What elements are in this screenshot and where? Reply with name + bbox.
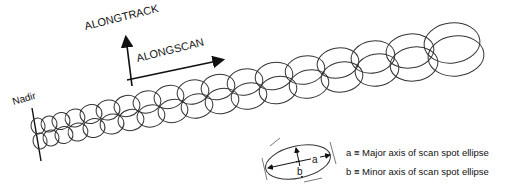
- legend-minor-axis: b ≡ Minor axis of scan spot ellipse: [346, 166, 489, 177]
- tangent-left-top: [270, 138, 280, 146]
- axis-label-b: b: [297, 166, 303, 177]
- legend-major-axis: a ≡ Major axis of scan spot ellipse: [346, 147, 489, 158]
- tangent-bottom: [304, 178, 322, 182]
- scan-spot-diagram: a b: [0, 0, 523, 191]
- major-axis-arrow-back: [268, 161, 300, 168]
- nadir-line: [32, 108, 41, 161]
- minor-axis-arrow-up: [296, 148, 299, 162]
- scan-spot-chain: [29, 20, 485, 150]
- legend-ellipse: a b: [262, 138, 336, 185]
- tangent-right: [330, 142, 336, 164]
- axis-label-a: a: [312, 154, 318, 165]
